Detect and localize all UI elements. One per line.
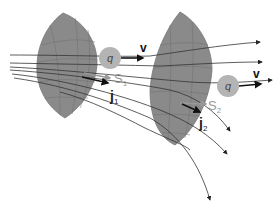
velocity-2-arrow [239, 84, 261, 86]
surface-1-label: S1 [114, 71, 128, 88]
current-2-label: j2 [198, 115, 208, 133]
current-1-subscript: 1 [114, 97, 119, 106]
surface-2-label: S2 [208, 98, 222, 115]
charge-1-label: q [107, 52, 114, 64]
surface-2-normal-arrow [180, 103, 206, 104]
current-2-subscript: 2 [203, 124, 208, 133]
surface-1 [37, 13, 97, 118]
diagram-canvas: q v S1 j1 q v S2 j2 [0, 0, 280, 208]
charge-2: q [217, 75, 239, 97]
charge-2-label: q [225, 80, 232, 92]
charge-1: q [99, 47, 121, 69]
velocity-2-label: v [253, 67, 260, 81]
surface-1-subscript: 1 [123, 79, 128, 88]
current-1-label: j1 [109, 88, 119, 106]
surface-1-letter: S [114, 71, 123, 86]
surface-2-subscript: 2 [217, 106, 222, 115]
surface-2-letter: S [208, 98, 217, 113]
velocity-1-label: v [140, 41, 147, 55]
